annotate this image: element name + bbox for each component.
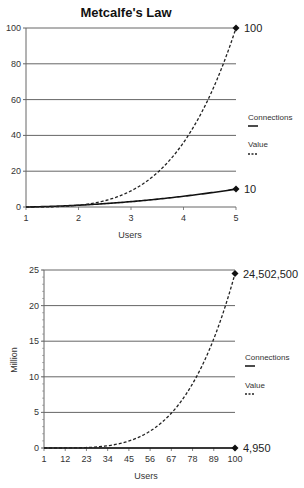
chart-title: Metcalfe's Law <box>80 5 172 20</box>
x-tick-label: 67 <box>166 454 176 464</box>
x-tick-label: 3 <box>128 213 133 223</box>
legend-connections-label: Connections <box>248 113 292 122</box>
end-value-label: 10 <box>244 183 256 195</box>
legend-connections-label: Connections <box>245 353 289 362</box>
y-tick-label: 100 <box>6 23 21 33</box>
end-marker-icon <box>232 270 239 277</box>
y-tick-label: 60 <box>11 95 21 105</box>
y-tick-label: 0 <box>34 443 39 453</box>
legend-value-label: Value <box>245 381 265 390</box>
bottom-chart: 0510152025 11223344556677889100 24,502,5… <box>9 265 298 481</box>
bottom-x-axis-label: Users <box>134 471 158 481</box>
top-x-tick-labels: 12345 <box>23 207 238 223</box>
bottom-x-tick-labels: 11223344556677889100 <box>41 448 242 464</box>
x-tick-label: 56 <box>145 454 155 464</box>
top-value-line <box>26 28 236 207</box>
top-end-markers: 10010 <box>233 22 263 195</box>
x-tick-label: 5 <box>233 213 238 223</box>
x-tick-label: 12 <box>60 454 70 464</box>
x-tick-label: 89 <box>209 454 219 464</box>
end-marker-icon <box>233 186 240 193</box>
bottom-value-line <box>44 274 235 448</box>
bottom-legend: Connections Value <box>245 353 289 394</box>
top-x-axis-label: Users <box>118 230 142 240</box>
legend-value-label: Value <box>248 140 268 149</box>
y-tick-label: 40 <box>11 130 21 140</box>
x-tick-label: 4 <box>181 213 186 223</box>
bottom-y-tick-labels: 0510152025 <box>29 265 39 453</box>
x-tick-label: 45 <box>124 454 134 464</box>
y-tick-label: 20 <box>11 166 21 176</box>
top-chart: Metcalfe's Law 020406080100 12345 10010 … <box>6 5 293 240</box>
x-tick-label: 78 <box>188 454 198 464</box>
x-tick-label: 100 <box>227 454 242 464</box>
y-tick-label: 0 <box>16 202 21 212</box>
chart-canvas: Metcalfe's Law 020406080100 12345 10010 … <box>0 0 304 488</box>
x-tick-label: 34 <box>103 454 113 464</box>
x-tick-label: 1 <box>23 213 28 223</box>
end-marker-icon <box>233 25 240 32</box>
end-marker-icon <box>232 444 239 451</box>
x-tick-label: 1 <box>41 454 46 464</box>
top-legend: Connections Value <box>248 113 292 154</box>
y-tick-label: 10 <box>29 372 39 382</box>
top-connections-line <box>26 189 236 207</box>
end-value-label: 100 <box>244 22 262 34</box>
x-tick-label: 23 <box>81 454 91 464</box>
top-y-tick-labels: 020406080100 <box>6 23 21 212</box>
x-tick-label: 2 <box>76 213 81 223</box>
end-value-label: 24,502,500 <box>243 268 298 280</box>
y-tick-label: 20 <box>29 301 39 311</box>
y-tick-label: 25 <box>29 265 39 275</box>
bottom-y-axis-label: Million <box>9 347 19 373</box>
y-tick-label: 15 <box>29 336 39 346</box>
end-value-label: 4,950 <box>243 442 271 454</box>
y-tick-label: 80 <box>11 59 21 69</box>
y-tick-label: 5 <box>34 407 39 417</box>
top-gridlines <box>23 28 236 207</box>
